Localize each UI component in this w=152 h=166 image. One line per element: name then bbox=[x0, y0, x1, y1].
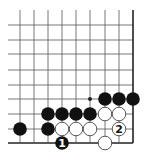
white-stone: 2 bbox=[112, 122, 126, 136]
white-stone bbox=[69, 122, 83, 136]
black-stone: 1 bbox=[55, 136, 69, 150]
white-stone bbox=[98, 107, 112, 121]
black-stone bbox=[41, 107, 55, 121]
white-stone bbox=[83, 122, 97, 136]
black-stone bbox=[69, 107, 83, 121]
star-point bbox=[88, 97, 92, 101]
white-stone bbox=[98, 136, 112, 150]
stones-layer: 21 bbox=[13, 92, 140, 150]
move-number-label: 2 bbox=[115, 123, 123, 136]
black-stone bbox=[55, 107, 69, 121]
black-stone bbox=[83, 107, 97, 121]
black-stone bbox=[13, 122, 27, 136]
white-stone bbox=[55, 122, 69, 136]
star-points bbox=[88, 97, 92, 101]
go-board: 21 bbox=[0, 0, 152, 166]
black-stone bbox=[41, 122, 55, 136]
white-stone bbox=[112, 107, 126, 121]
black-stone bbox=[98, 92, 112, 106]
black-stone bbox=[112, 92, 126, 106]
move-number-label: 1 bbox=[58, 137, 66, 150]
black-stone bbox=[126, 92, 140, 106]
